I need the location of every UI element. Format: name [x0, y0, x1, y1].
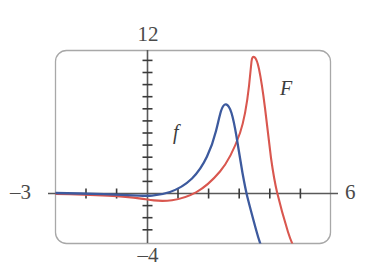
- curve-label-f: f: [173, 122, 179, 142]
- figure-plot-f-and-F: 12 –4 –3 6 f F: [0, 0, 384, 278]
- curve-label-F: F: [280, 78, 292, 98]
- x-axis-max-label: 6: [345, 182, 356, 203]
- x-axis-min-label: –3: [10, 182, 31, 203]
- y-axis-min-label: –4: [0, 245, 296, 266]
- y-axis-max-label: 12: [0, 24, 296, 45]
